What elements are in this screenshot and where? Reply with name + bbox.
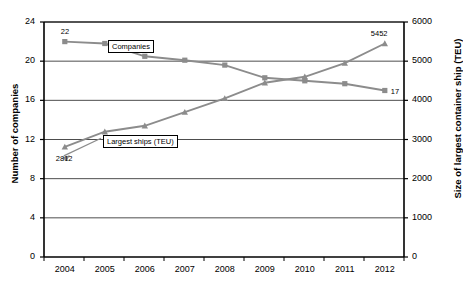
annotation-ships-end: 5452 [371,29,388,38]
y-axis-left-tick-label: 16 [11,94,35,104]
x-axis-tick-label: 2005 [85,264,125,274]
y-axis-right-tick-label: 5000 [412,55,444,65]
annotation-companies-end: 17 [391,87,399,96]
x-axis-tick-label: 2011 [325,264,365,274]
gridlines [44,22,404,218]
y-axis-left-tick-label: 20 [11,55,35,65]
x-axis-tick-label: 2008 [205,264,245,274]
x-axis-tick-label: 2007 [165,264,205,274]
annotation-companies-start: 22 [61,27,69,36]
y-axis-right-tick-label: 0 [412,251,444,261]
data-series [62,39,388,150]
x-axis-tick-label: 2009 [245,264,285,274]
y-axis-left-tick-label: 12 [11,134,35,144]
x-axis-tick-label: 2010 [285,264,325,274]
y-axis-left-tick-label: 8 [11,173,35,183]
x-axis-tick-label: 2006 [125,264,165,274]
series-label-companies: Companies [108,40,154,53]
y-axis-left-tick-label: 4 [11,212,35,222]
y-axis-right-tick-label: 2000 [412,173,444,183]
y-axis-right-tick-label: 6000 [412,16,444,26]
x-axis-tick-label: 2004 [45,264,85,274]
y-axis-right-tick-label: 1000 [412,212,444,222]
y-axis-right-tick-label: 4000 [412,94,444,104]
y-axis-right-tick-label: 3000 [412,134,444,144]
x-axis-tick-label: 2012 [365,264,405,274]
series-label-largest-ships: Largest ships (TEU) [103,135,178,148]
y-axis-left-tick-label: 0 [11,251,35,261]
y-axis-left-tick-label: 24 [11,16,35,26]
annotation-ships-start: 2812 [56,154,73,163]
